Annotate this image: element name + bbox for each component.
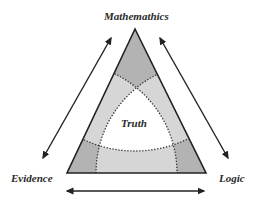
- label-logic: Logic: [219, 173, 245, 184]
- label-truth: Truth: [121, 118, 147, 129]
- label-evidence: Evidence: [11, 173, 53, 184]
- label-mathematics: Mathemathics: [104, 11, 169, 22]
- truth-diagram: Mathemathics Evidence Logic Truth: [0, 0, 260, 205]
